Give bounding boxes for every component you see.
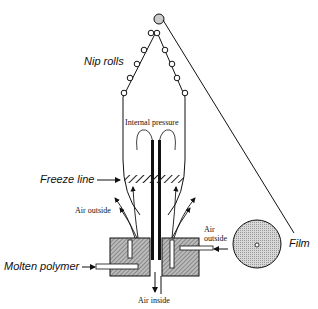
pressure-arrow-left: [137, 130, 153, 150]
air-ring-inlet: [180, 246, 213, 250]
air-tube: [151, 140, 154, 260]
nip-rolls: [121, 30, 188, 96]
air-inside-label: Air inside: [138, 296, 170, 305]
freeze-line-label: Freeze line: [40, 173, 94, 185]
die-right: [162, 238, 199, 276]
top-guide-roll: [154, 14, 164, 24]
film-web: [163, 20, 294, 233]
air-outside-left-label: Air outside: [75, 206, 111, 215]
molten-polymer-label: Molten polymer: [4, 260, 81, 272]
blown-film-extrusion-diagram: Nip rolls Internal pressure Freeze line …: [0, 0, 318, 309]
film-label: Film: [289, 237, 310, 249]
air-outside-right-label-2: outside: [204, 234, 228, 243]
air-outside-right-label-1: Air: [204, 225, 215, 234]
freeze-line-band: [124, 175, 184, 183]
nip-rolls-label: Nip rolls: [84, 55, 124, 67]
pressure-arrow-right: [159, 130, 175, 150]
internal-pressure-label: Internal pressure: [125, 118, 179, 127]
polymer-inlet: [96, 264, 138, 269]
film-roll-core: [255, 243, 259, 247]
air-outside-flow: [115, 187, 195, 238]
